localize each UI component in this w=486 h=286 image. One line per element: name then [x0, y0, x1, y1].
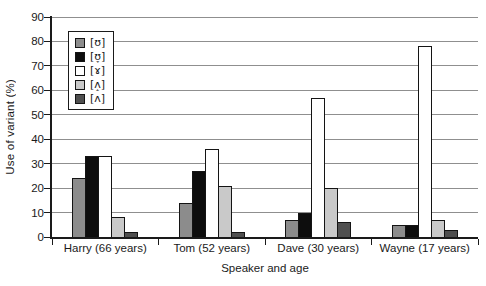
y-tick-label: 0	[18, 230, 44, 244]
legend-label: [ʌ]	[90, 93, 105, 105]
category-label: Tom (52 years)	[159, 242, 266, 254]
y-tick-label: 80	[18, 34, 44, 48]
bar-group	[372, 17, 479, 237]
legend-item: [ʊ̞]	[75, 50, 105, 63]
category-label: Dave (30 years)	[265, 242, 372, 254]
bar-ʌ	[337, 222, 351, 237]
y-tick-label: 90	[18, 10, 44, 24]
bar-ɤ	[205, 149, 219, 237]
bar-chart-figure: Use of variant (%) 0102030405060708090 […	[0, 0, 486, 286]
bar-ʊ̞	[192, 171, 206, 237]
legend-item: [ʊ]	[75, 36, 105, 49]
bar-ʌ̝	[431, 220, 445, 237]
legend-item: [ɤ]	[75, 64, 105, 77]
bar-ʊ	[179, 203, 193, 237]
y-tick-label: 20	[18, 181, 44, 195]
y-tick-label: 70	[18, 59, 44, 73]
legend-swatch	[75, 52, 85, 62]
category-label: Wayne (17 years)	[372, 242, 479, 254]
bar-groups-container	[52, 17, 478, 237]
bar-ʌ̝	[218, 186, 232, 237]
legend-box: [ʊ][ʊ̞][ɤ][ʌ̝][ʌ]	[68, 31, 114, 110]
y-tick-label: 60	[18, 83, 44, 97]
y-axis-title-text: Use of variant (%)	[4, 79, 16, 175]
category-label: Harry (66 years)	[52, 242, 159, 254]
y-axis-tick-labels: 0102030405060708090	[18, 17, 44, 237]
y-tick-label: 10	[18, 206, 44, 220]
legend-item: [ʌ̝]	[75, 78, 105, 91]
legend-label: [ɤ]	[90, 65, 105, 77]
bar-ɤ	[418, 46, 432, 237]
bar-ʊ	[285, 220, 299, 237]
x-axis-title: Speaker and age	[52, 262, 478, 274]
bar-ʊ̞	[405, 225, 419, 237]
bar-ɤ	[311, 98, 325, 237]
y-tick-label: 30	[18, 157, 44, 171]
legend-swatch	[75, 38, 85, 48]
legend-swatch	[75, 94, 85, 104]
legend-label: [ʊ̞]	[90, 51, 105, 63]
legend-swatch	[75, 80, 85, 90]
legend-swatch	[75, 66, 85, 76]
y-tick-label: 50	[18, 108, 44, 122]
category-labels-row: Harry (66 years)Tom (52 years)Dave (30 y…	[52, 242, 478, 254]
bar-group	[265, 17, 372, 237]
bar-ɤ	[98, 156, 112, 237]
bar-ʊ	[392, 225, 406, 237]
bar-ʊ̞	[298, 213, 312, 237]
bar-group	[159, 17, 266, 237]
bar-ʌ	[444, 230, 458, 237]
bar-ʊ̞	[85, 156, 99, 237]
bar-ʊ	[72, 178, 86, 237]
legend-item: [ʌ]	[75, 92, 105, 105]
y-axis-title: Use of variant (%)	[2, 17, 18, 237]
y-tick-label: 40	[18, 132, 44, 146]
plot-area: [ʊ][ʊ̞][ɤ][ʌ̝][ʌ]	[52, 17, 478, 237]
legend-label: [ʊ]	[90, 37, 105, 49]
legend-label: [ʌ̝]	[90, 79, 105, 91]
bar-ʌ̝	[324, 188, 338, 237]
bar-ʌ̝	[111, 217, 125, 237]
